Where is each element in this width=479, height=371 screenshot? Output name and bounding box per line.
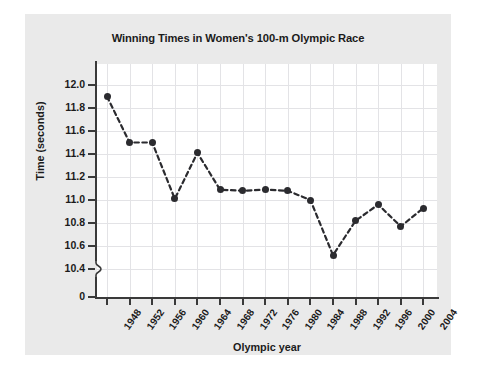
- x-tick-mark: [242, 299, 244, 305]
- y-tick-mark: [88, 245, 95, 247]
- gridline-horizontal: [97, 154, 437, 155]
- gridline-horizontal: [97, 269, 437, 270]
- y-tick-label: 11.6: [47, 124, 85, 136]
- data-point: [375, 201, 382, 208]
- gridline-vertical: [197, 64, 198, 298]
- x-tick-mark: [264, 299, 266, 305]
- y-tick-mark: [88, 107, 95, 109]
- x-axis-line: [95, 297, 439, 299]
- chart-title: Winning Times in Women's 100-m Olympic R…: [25, 32, 451, 44]
- x-tick-mark: [422, 299, 424, 305]
- gridline-horizontal: [97, 131, 437, 132]
- gridline-vertical: [175, 64, 176, 298]
- gridline-horizontal: [97, 177, 437, 178]
- data-point: [330, 252, 337, 259]
- x-tick-mark: [355, 299, 357, 305]
- y-tick-mark: [88, 296, 95, 298]
- gridline-vertical: [130, 64, 131, 298]
- y-tick-label: 0: [47, 290, 85, 302]
- y-tick-mark: [88, 222, 95, 224]
- gridline-vertical: [401, 64, 402, 298]
- y-axis-line: [95, 61, 97, 261]
- data-point: [217, 186, 224, 193]
- plot-area: [97, 64, 437, 298]
- y-tick-label: 10.4: [47, 262, 85, 274]
- y-axis-line-lower: [95, 277, 97, 299]
- data-point: [262, 186, 269, 193]
- gridline-horizontal: [97, 246, 437, 247]
- gridline-vertical: [265, 64, 266, 298]
- chart-page: Winning Times in Women's 100-m Olympic R…: [0, 0, 479, 371]
- y-tick-mark: [88, 130, 95, 132]
- x-tick-mark: [400, 299, 402, 305]
- data-point: [149, 139, 156, 146]
- x-tick-mark: [151, 299, 153, 305]
- data-point: [420, 205, 427, 212]
- data-point: [307, 197, 314, 204]
- data-point: [104, 93, 111, 100]
- y-tick-label: 10.8: [47, 216, 85, 228]
- x-tick-mark: [106, 299, 108, 305]
- y-tick-mark: [88, 176, 95, 178]
- y-tick-label: 12.0: [47, 78, 85, 90]
- gridline-vertical: [220, 64, 221, 298]
- gridline-horizontal: [97, 85, 437, 86]
- gridline-horizontal: [97, 108, 437, 109]
- y-axis-label: Time (seconds): [34, 81, 46, 201]
- gridline-horizontal: [97, 223, 437, 224]
- y-tick-mark: [88, 268, 95, 270]
- gridline-vertical: [152, 64, 153, 298]
- y-tick-label: 11.4: [47, 147, 85, 159]
- x-tick-mark: [196, 299, 198, 305]
- x-tick-mark: [287, 299, 289, 305]
- x-axis-label: Olympic year: [97, 341, 437, 353]
- gridline-vertical: [378, 64, 379, 298]
- y-tick-label: 11.0: [47, 193, 85, 205]
- gridline-vertical: [423, 64, 424, 298]
- x-tick-mark: [332, 299, 334, 305]
- gridline-vertical: [356, 64, 357, 298]
- x-tick-mark: [309, 299, 311, 305]
- gridline-vertical: [333, 64, 334, 298]
- x-tick-mark: [129, 299, 131, 305]
- y-tick-mark: [88, 153, 95, 155]
- y-tick-label: 11.2: [47, 170, 85, 182]
- y-tick-label: 10.6: [47, 239, 85, 251]
- y-tick-label: 11.8: [47, 101, 85, 113]
- gridline-vertical: [243, 64, 244, 298]
- gridline-vertical: [310, 64, 311, 298]
- y-tick-mark: [88, 84, 95, 86]
- y-tick-mark: [88, 199, 95, 201]
- x-tick-mark: [219, 299, 221, 305]
- gridline-vertical: [288, 64, 289, 298]
- gridline-horizontal: [97, 200, 437, 201]
- x-tick-mark: [377, 299, 379, 305]
- x-tick-mark: [174, 299, 176, 305]
